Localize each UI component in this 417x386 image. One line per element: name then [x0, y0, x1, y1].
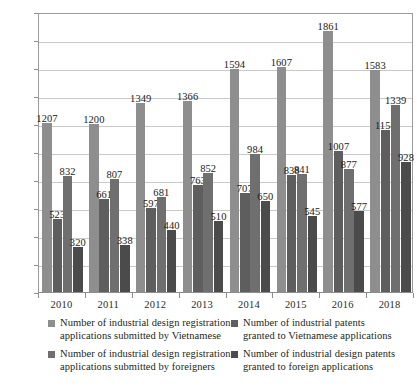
legend-label: Number of industrial design registration… [60, 348, 231, 373]
bar-value-label: 928 [392, 152, 417, 163]
bar-value-label: 1349 [127, 93, 155, 104]
bar-2018-series2 [381, 130, 391, 292]
legend-swatch-icon [48, 320, 55, 327]
bar-value-label: 1366 [174, 91, 202, 102]
bar-2012-series4 [167, 230, 177, 292]
bar-2010-series4 [73, 247, 83, 292]
legend-label: Number of industrial design patentsgrant… [243, 348, 395, 373]
bar-value-label: 1861 [314, 21, 342, 32]
bar-value-label: 984 [241, 144, 269, 155]
bar-2014-series4 [261, 201, 271, 292]
bar-2013-series2 [193, 185, 203, 292]
legend-swatch-icon [231, 351, 238, 358]
x-axis-tick-mark [132, 293, 133, 298]
bar-2013-series1 [183, 101, 193, 292]
bar-value-label: 510 [205, 211, 233, 222]
legend-label: Number of industrial patentsgranted to V… [243, 317, 392, 342]
legend-item: Number of industrial design patentsgrant… [231, 348, 411, 373]
legend-item: Number of industrial patentsgranted to V… [231, 317, 411, 342]
bar-value-label: 1339 [382, 95, 410, 106]
bar-value-label: 1007 [325, 141, 353, 152]
bar-2015-series1 [277, 67, 287, 292]
bar-value-label: 681 [147, 187, 175, 198]
bar-2012-series2 [146, 208, 156, 292]
bar-2018-series1 [370, 70, 380, 292]
legend-item: Number of industrial design registration… [48, 317, 248, 342]
x-axis-tick-mark [226, 293, 227, 298]
bar-2014-series1 [230, 69, 240, 292]
bar-2016-series3 [344, 169, 354, 292]
bar-2014-series3 [250, 154, 260, 292]
bar-2011-series2 [99, 199, 109, 292]
bar-2011-series1 [89, 124, 99, 292]
bar-value-label: 545 [298, 206, 326, 217]
bar-2018-series4 [401, 162, 411, 292]
bar-value-label: 650 [251, 191, 279, 202]
x-axis-tick-label: 2010 [38, 299, 85, 311]
x-axis-tick-label: 2015 [272, 299, 319, 311]
bar-value-label: 577 [345, 201, 373, 212]
bar-value-label: 440 [158, 220, 186, 231]
bar-2012-series3 [157, 197, 167, 292]
bar-2016-series4 [354, 211, 364, 292]
bar-value-label: 1607 [267, 57, 295, 68]
bar-value-label: 852 [194, 163, 222, 174]
bar-2010-series2 [53, 219, 63, 292]
bar-2013-series4 [214, 221, 224, 292]
x-axis-tick-label: 2013 [179, 299, 226, 311]
x-axis-tick-label: 2012 [132, 299, 179, 311]
bar-value-label: 1583 [361, 60, 389, 71]
x-axis-tick-mark [319, 293, 320, 298]
bar-value-label: 338 [111, 235, 139, 246]
legend-label: Number of industrial design registration… [60, 317, 231, 342]
bar-value-label: 877 [335, 159, 363, 170]
gridline [39, 70, 412, 71]
x-axis-tick-mark [366, 293, 367, 298]
bar-2018-series3 [391, 105, 401, 292]
legend-item: Number of industrial design registration… [48, 348, 248, 373]
legend-swatch-icon [48, 351, 55, 358]
bar-2011-series4 [120, 245, 130, 292]
x-axis-tick-label: 2018 [366, 299, 413, 311]
bar-2015-series2 [287, 175, 297, 292]
bar-2010-series3 [63, 176, 73, 292]
bar-2015-series4 [308, 216, 318, 292]
bar-2013-series3 [203, 173, 213, 292]
bar-2010-series1 [42, 123, 52, 292]
gridline [39, 98, 412, 99]
x-axis-tick-mark [413, 293, 414, 298]
bar-value-label: 1200 [80, 114, 108, 125]
legend-swatch-icon [231, 320, 238, 327]
x-axis-tick-mark [85, 293, 86, 298]
plot-area: 1207523832320120066180733813495976814401… [38, 13, 413, 293]
x-axis-tick-label: 2011 [85, 299, 132, 311]
bar-2014-series2 [240, 193, 250, 292]
bar-value-label: 807 [100, 169, 128, 180]
x-axis-tick-mark [38, 293, 39, 298]
chart-legend: Number of industrial design registration… [48, 317, 408, 379]
x-axis-tick-label: 2016 [319, 299, 366, 311]
gridline [39, 42, 412, 43]
bar-value-label: 320 [64, 237, 92, 248]
bar-2015-series3 [297, 174, 307, 292]
bar-value-label: 1594 [220, 59, 248, 70]
bar-2016-series2 [334, 151, 344, 292]
bar-2016-series1 [323, 31, 333, 292]
bar-value-label: 1207 [33, 113, 61, 124]
x-axis-tick-label: 2014 [226, 299, 273, 311]
bar-value-label: 832 [54, 166, 82, 177]
x-axis-tick-mark [179, 293, 180, 298]
bar-value-label: 841 [288, 164, 316, 175]
grouped-bar-chart: 0200400600800100012001400160018002000 12… [0, 0, 417, 386]
x-axis-tick-mark [272, 293, 273, 298]
